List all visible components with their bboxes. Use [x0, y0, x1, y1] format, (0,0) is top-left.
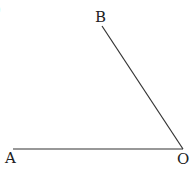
- ray-ob: [102, 26, 183, 149]
- point-label-o: O: [177, 150, 189, 168]
- partial-label: ): [0, 0, 1, 18]
- angle-diagram: ) B A O: [0, 0, 194, 173]
- point-label-b: B: [95, 8, 106, 26]
- point-label-a: A: [4, 149, 16, 167]
